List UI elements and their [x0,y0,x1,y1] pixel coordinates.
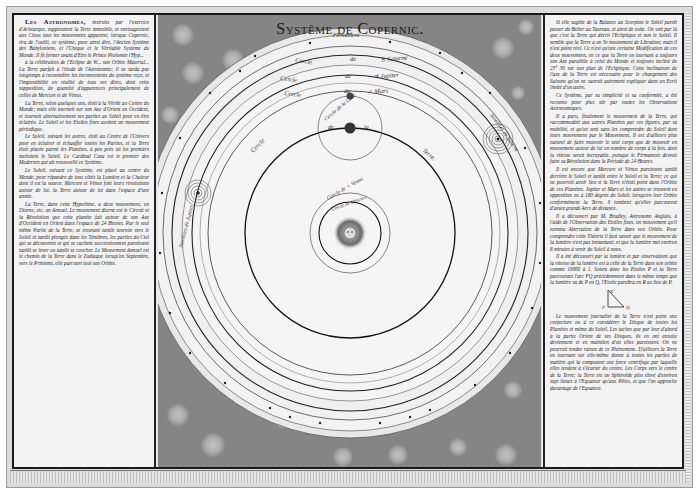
map-title: Systême de Copernic. [255,20,445,38]
triangle-diagram-icon: R F Q [590,287,650,313]
jupiter-orbit-label-de: de [345,72,351,79]
aberration-figure: R F Q [550,287,677,313]
left-paragraph: instruits par l'exercice d'Aristarque, s… [19,19,149,58]
left-paragraph: La Terre, dans cette Hypothèse, a deux m… [19,201,149,266]
left-paragraph: La Terre, selon quelques uns, étoit à la… [19,100,149,133]
right-paragraph: Si elle sagitte de la Balance au Scorpio… [550,19,677,91]
earth-orbit-label-la: la [364,124,369,130]
right-paragraph: Il est encore que Mercure et Vénus paroi… [550,166,677,212]
right-paragraph: Il a découvert par M. Bradley, Astronome… [550,213,677,252]
solar-system-disc: Firmament Cercle de ♄ Saturne Cercle de … [158,28,541,438]
right-paragraph: Le mouvement journalier de la Terre n'es… [550,313,677,392]
figure-label-f: F [601,305,606,310]
copernican-diagram: Firmament Cercle de ♄ Saturne Cercle de … [158,15,541,467]
saturn-orbit-label-de: de [350,55,356,62]
mars-orbit-label-de: de [344,87,350,94]
figure-label-q: Q [626,305,630,310]
left-text-column: Les Astronomes, instruits par l'exercice… [14,15,156,467]
mars-orbit-label-name: ♂ Mars [368,87,389,95]
hatched-bottom-margin [10,470,687,483]
left-paragraph: Le Soleil, suivant les autres, étoit au … [19,133,149,166]
earth-icon [345,123,356,134]
figure-label-r: R [609,289,613,294]
right-paragraph: Ce Système, par sa simplicité et sa conf… [550,92,677,112]
right-text-column: Si elle sagitte de la Balance au Scorpio… [543,15,682,467]
earth-orbit-label-de: de [328,124,334,130]
left-paragraph: à la célébration de l'Eclipse de W... so… [19,59,149,98]
orbit-diagram-svg: Firmament Cercle de ♄ Saturne Cercle de … [158,15,541,467]
hatched-right-margin [686,12,690,482]
right-paragraph: Il a paru, finalement le mouvement de la… [550,113,677,165]
left-paragraph: Le Soleil, suivant ce Système, est placé… [19,167,149,200]
right-paragraph: Il a été découvert par la lumière et par… [550,253,677,286]
